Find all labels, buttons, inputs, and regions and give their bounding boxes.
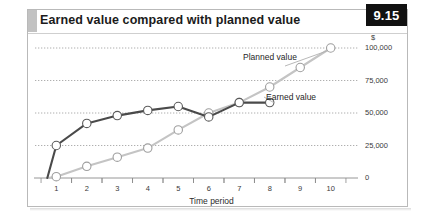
data-point-marker: [83, 119, 91, 127]
x-axis-tick-label: 8: [263, 184, 277, 193]
chart-plot-area: [33, 40, 361, 185]
figure-frame-shadow: [30, 208, 411, 211]
y-axis-unit: $: [371, 33, 375, 42]
x-axis-tick-label: 9: [293, 184, 307, 193]
x-axis-tick-label: 5: [171, 184, 185, 193]
x-axis-tick-label: 1: [49, 184, 63, 193]
x-axis-tick-label: 7: [232, 184, 246, 193]
y-axis-tick-label: 75,000: [365, 76, 388, 85]
data-point-marker: [205, 113, 213, 121]
x-axis: [34, 178, 358, 183]
title-divider: [28, 33, 407, 34]
data-point-marker: [144, 144, 152, 152]
x-axis-tick-label: 4: [141, 184, 155, 193]
y-axis-tick-label: 50,000: [365, 108, 388, 117]
x-axis-tick-label: 6: [202, 184, 216, 193]
y-axis-tick-label: 100,000: [365, 43, 392, 52]
x-axis-tick-label: 3: [110, 184, 124, 193]
accent-bar: [28, 10, 37, 32]
page-title: Earned value compared with planned value: [40, 13, 300, 27]
chart-svg: [33, 40, 361, 185]
data-point-marker: [327, 44, 335, 52]
series-line: [47, 103, 269, 178]
data-point-marker: [174, 102, 182, 110]
data-point-marker: [113, 111, 121, 119]
data-point-marker: [174, 126, 182, 134]
data-point-marker: [144, 106, 152, 114]
data-point-marker: [266, 83, 274, 91]
x-axis-title: Time period: [0, 196, 423, 206]
data-point-marker: [52, 173, 60, 181]
data-point-marker: [83, 162, 91, 170]
data-point-marker: [52, 141, 60, 149]
data-point-marker: [296, 63, 304, 71]
figure-container: Earned value compared with planned value…: [0, 0, 423, 223]
series-label-planned: Planned value: [243, 52, 297, 62]
y-axis-tick-label: 25,000: [365, 141, 388, 150]
data-series-group: [47, 44, 335, 181]
data-point-marker: [113, 153, 121, 161]
y-axis-tick-label: 0: [365, 173, 369, 182]
x-axis-tick-label: 2: [80, 184, 94, 193]
x-axis-tick-label: 10: [324, 184, 338, 193]
series-label-earned: Earned value: [266, 92, 316, 102]
data-point-marker: [235, 98, 243, 106]
figure-number-badge: 9.15: [366, 4, 407, 26]
